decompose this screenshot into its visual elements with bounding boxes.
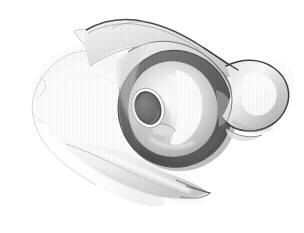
- scapula-illustration-svg: [0, 0, 304, 233]
- anatomical-figure: Scapula, lateral oblique view: [0, 0, 304, 233]
